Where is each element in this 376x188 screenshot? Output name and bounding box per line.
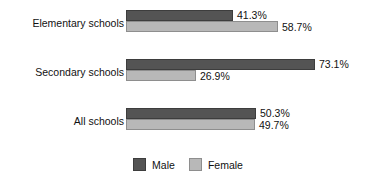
- value-label-elementary-female: 58.7%: [282, 22, 312, 33]
- bar-group-all: All schools 50.3% 49.7%: [0, 108, 376, 134]
- female-swatch-icon: [189, 158, 202, 171]
- bar-all-male[interactable]: [126, 108, 256, 119]
- value-label-all-female: 49.7%: [259, 120, 289, 131]
- bar-group-elementary: Elementary schools 41.3% 58.7%: [0, 10, 376, 36]
- bar-all-female[interactable]: [126, 119, 255, 130]
- legend-label-male: Male: [152, 159, 175, 171]
- plot-area: Elementary schools 41.3% 58.7% Secondary…: [0, 0, 376, 150]
- value-label-secondary-female: 26.9%: [200, 71, 230, 82]
- bar-chart: Elementary schools 41.3% 58.7% Secondary…: [0, 0, 376, 188]
- category-label-secondary: Secondary schools: [0, 66, 124, 78]
- category-label-all: All schools: [0, 115, 124, 127]
- legend-label-female: Female: [208, 159, 243, 171]
- value-label-all-male: 50.3%: [260, 108, 290, 119]
- legend-item-female[interactable]: Female: [189, 158, 243, 171]
- bar-group-secondary: Secondary schools 73.1% 26.9%: [0, 59, 376, 85]
- value-label-elementary-male: 41.3%: [237, 10, 267, 21]
- male-swatch-icon: [133, 158, 146, 171]
- bar-elementary-female[interactable]: [126, 21, 278, 32]
- bar-elementary-male[interactable]: [126, 10, 233, 21]
- value-label-secondary-male: 73.1%: [319, 59, 349, 70]
- bar-secondary-female[interactable]: [126, 70, 196, 81]
- chart-legend: Male Female: [0, 158, 376, 171]
- legend-item-male[interactable]: Male: [133, 158, 175, 171]
- category-label-elementary: Elementary schools: [0, 17, 124, 29]
- bar-secondary-male[interactable]: [126, 59, 315, 70]
